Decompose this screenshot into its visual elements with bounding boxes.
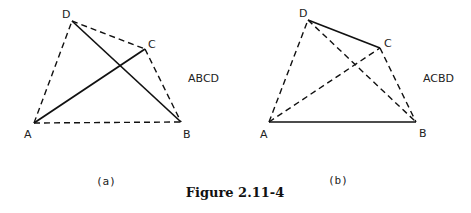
figure-canvas: D C A B ABCD (a) D C A B ACBD (b) Figure…: [0, 0, 471, 213]
edge-ad-dashed: [269, 20, 308, 122]
point-label-b: B: [183, 128, 191, 141]
edge-ad-dashed: [34, 21, 72, 123]
panel-b-graph: [269, 20, 416, 122]
tour-label-b: ACBD: [423, 72, 454, 85]
tour-label-a: ABCD: [188, 72, 219, 85]
point-label-b: B: [419, 127, 427, 140]
point-label-d: D: [299, 7, 307, 20]
point-label-d: D: [62, 8, 70, 21]
edge-dc-solid: [308, 20, 380, 48]
edge-ab-dashed: [34, 122, 181, 123]
edge-ac-dashed: [269, 48, 380, 122]
edge-ac-solid: [34, 49, 145, 123]
caption-b: (b): [328, 174, 348, 187]
point-label-a: A: [24, 128, 32, 141]
edge-cb-dashed: [145, 49, 181, 122]
point-label-c: C: [148, 38, 156, 51]
edge-db-solid: [72, 21, 181, 122]
edge-cb-dashed: [380, 48, 416, 122]
caption-a: (a): [96, 175, 116, 188]
edge-db-dashed: [308, 20, 416, 122]
point-label-a: A: [260, 128, 268, 141]
edge-dc-dashed: [72, 21, 145, 49]
figure-title: Figure 2.11-4: [186, 185, 284, 200]
point-label-c: C: [384, 37, 392, 50]
panel-a-graph: [34, 21, 181, 123]
